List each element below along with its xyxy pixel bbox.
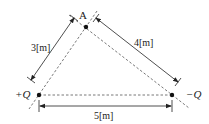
vertex-label-a: A bbox=[79, 9, 87, 21]
negative-charge-label: −Q bbox=[186, 88, 201, 100]
dimension-label-right: 4[m] bbox=[134, 37, 153, 48]
dimension-label-left: 3[m] bbox=[31, 42, 50, 53]
dimension-right bbox=[93, 14, 181, 86]
point-a-dot bbox=[84, 25, 88, 29]
dimension-label-bottom: 5[m] bbox=[94, 110, 113, 121]
triangle-diagram: A +Q −Q 3[m] 4[m] 5[m] bbox=[0, 0, 209, 124]
positive-charge-label: +Q bbox=[15, 88, 30, 100]
positive-charge-dot bbox=[37, 93, 41, 97]
negative-charge-dot bbox=[170, 93, 174, 97]
dashed-triangle bbox=[29, 11, 189, 109]
